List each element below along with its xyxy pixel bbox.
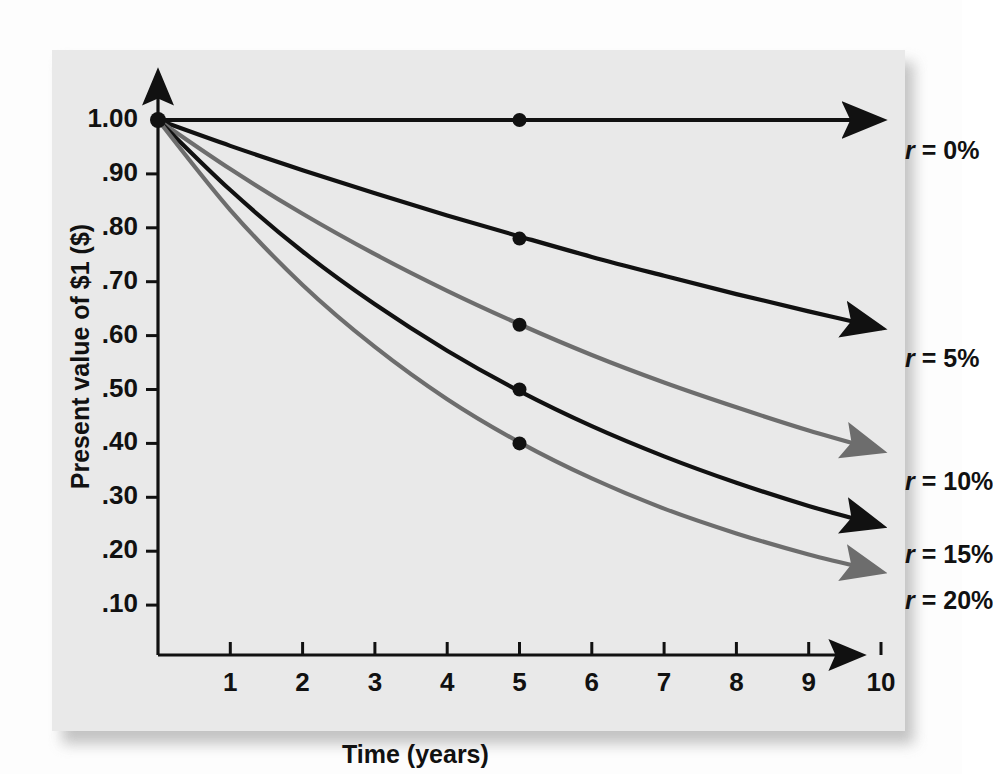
series-label-r-10-: r = 10% xyxy=(905,467,993,496)
origin-dot xyxy=(150,112,166,128)
rate-value: = 5% xyxy=(915,344,980,372)
y-tick-label: .40 xyxy=(54,426,138,457)
x-tick-label: 4 xyxy=(427,667,467,698)
series-curves xyxy=(158,120,881,572)
rate-value: = 10% xyxy=(915,467,993,495)
data-point-marker xyxy=(513,232,527,246)
rate-symbol: r xyxy=(905,344,915,372)
x-tick-label: 9 xyxy=(789,667,829,698)
y-tick-label: .20 xyxy=(54,534,138,565)
series-label-r-5-: r = 5% xyxy=(905,344,979,373)
y-tick-label: .30 xyxy=(54,480,138,511)
rate-symbol: r xyxy=(905,586,915,614)
rate-symbol: r xyxy=(905,467,915,495)
x-tick-label: 8 xyxy=(716,667,756,698)
y-tick-label: .70 xyxy=(54,265,138,296)
y-tick-label: .80 xyxy=(54,211,138,242)
origin-marker xyxy=(150,112,166,128)
rate-value: = 0% xyxy=(915,136,980,164)
x-axis-title: Time (years) xyxy=(342,740,489,769)
x-tick-label: 6 xyxy=(572,667,612,698)
x-tick-label: 2 xyxy=(283,667,323,698)
chart-plot-area xyxy=(52,50,905,731)
curve-r-10- xyxy=(158,120,881,451)
axes xyxy=(158,72,862,655)
data-point-marker xyxy=(513,113,527,127)
rate-value: = 20% xyxy=(915,586,993,614)
axis-ticks xyxy=(146,174,881,655)
y-tick-label: .60 xyxy=(54,319,138,350)
x-tick-label: 1 xyxy=(210,667,250,698)
x-tick-label: 10 xyxy=(861,667,901,698)
y-tick-label: .50 xyxy=(54,373,138,404)
chart-panel: Present value of $1 ($) Time (years) 1.0… xyxy=(52,50,905,731)
series-label-r-15-: r = 15% xyxy=(905,540,993,569)
curve-r-20- xyxy=(158,120,881,572)
y-tick-label: .90 xyxy=(54,157,138,188)
data-point-marker xyxy=(513,436,527,450)
x-tick-label: 5 xyxy=(500,667,540,698)
series-label-r-0-: r = 0% xyxy=(905,136,979,165)
data-point-marker xyxy=(513,318,527,332)
y-tick-label: .10 xyxy=(54,588,138,619)
year-five-markers xyxy=(513,113,527,450)
data-point-marker xyxy=(513,383,527,397)
rate-symbol: r xyxy=(905,136,915,164)
series-label-r-20-: r = 20% xyxy=(905,586,993,615)
y-tick-label: 1.00 xyxy=(54,103,138,134)
rate-value: = 15% xyxy=(915,540,993,568)
x-tick-label: 7 xyxy=(644,667,684,698)
x-tick-label: 3 xyxy=(355,667,395,698)
rate-symbol: r xyxy=(905,540,915,568)
